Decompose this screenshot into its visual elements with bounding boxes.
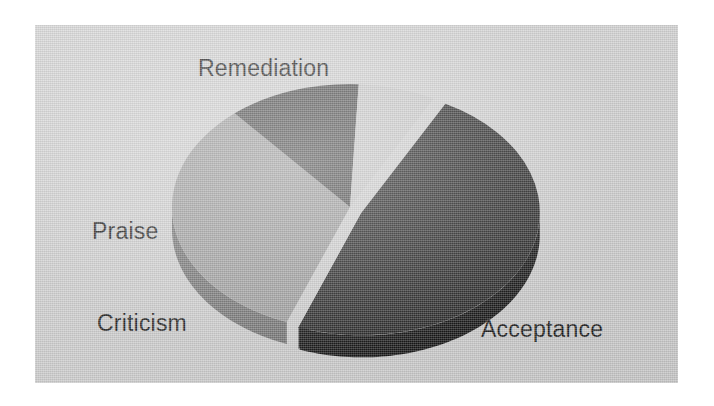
pie-label-praise: Praise (92, 218, 158, 245)
pie-label-acceptance: Acceptance (481, 316, 603, 343)
pie-label-criticism: Criticism (97, 310, 187, 337)
figure-panel: Remediation Praise Criticism Acceptance (35, 25, 678, 383)
pie-label-remediation: Remediation (198, 55, 329, 82)
